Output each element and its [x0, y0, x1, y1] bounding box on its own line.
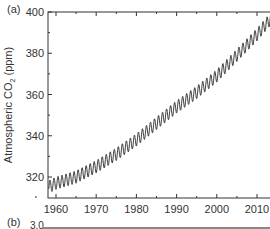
y-tick-label: 360	[26, 89, 44, 101]
panel-b-top-border	[42, 227, 270, 229]
y-tick-label: 400	[26, 6, 44, 18]
y-axis-label: Atmospheric CO2 (ppm)	[2, 47, 16, 163]
y-tick-label: 380	[26, 47, 44, 59]
y-tick-label: 320	[26, 171, 44, 183]
co2-chart: 320340360380400196019701980199020002010A…	[0, 0, 270, 229]
x-tick-label: 1970	[84, 203, 108, 215]
y-tick-label: 340	[26, 130, 44, 142]
x-tick-label: 2010	[245, 203, 269, 215]
x-tick-label: 1960	[44, 203, 68, 215]
co2-series-line	[49, 12, 270, 191]
x-tick-label: 2000	[205, 203, 229, 215]
x-tick-label: 1980	[124, 203, 148, 215]
x-tick-label: 1990	[164, 203, 188, 215]
